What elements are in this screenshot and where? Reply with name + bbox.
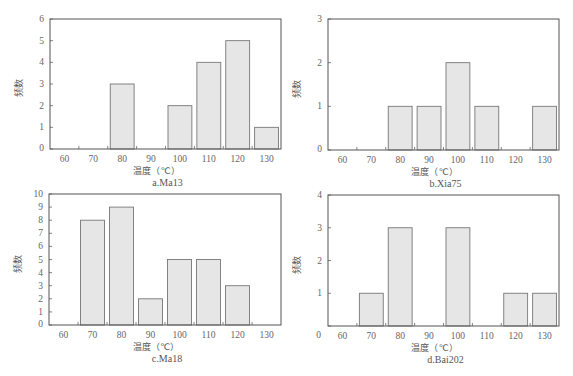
x-tick-label: 80 bbox=[395, 331, 405, 341]
x-tick-label: 60 bbox=[338, 331, 348, 341]
y-tick-label: 0 bbox=[317, 144, 322, 154]
chart-panel-1: 012360708090100110120130温度（℃）b.Xia75频数 bbox=[291, 14, 559, 189]
x-tick-label: 130 bbox=[537, 155, 552, 165]
y-tick-label: 3 bbox=[317, 14, 322, 24]
y-tick-label: 0 bbox=[316, 330, 321, 340]
x-tick-label: 130 bbox=[259, 330, 274, 340]
x-tick-label: 70 bbox=[89, 154, 99, 164]
x-tick-label: 70 bbox=[88, 330, 98, 340]
bar-80 bbox=[110, 84, 134, 149]
bar-110 bbox=[197, 62, 221, 149]
chart-canvas: 012345660708090100110120130温度（℃）a.Ma13频数… bbox=[0, 0, 573, 376]
x-tick-label: 100 bbox=[451, 155, 466, 165]
x-tick-label: 130 bbox=[537, 331, 552, 341]
x-tick-label: 120 bbox=[230, 330, 245, 340]
y-tick-label: 2 bbox=[38, 294, 43, 304]
x-tick-label: 90 bbox=[424, 155, 434, 165]
x-tick-label: 100 bbox=[451, 331, 466, 341]
chart-panel-2: 01234567891060708090100110120130温度（℃）c.M… bbox=[12, 189, 281, 364]
bar-130 bbox=[255, 127, 279, 149]
y-tick-label: 4 bbox=[317, 190, 322, 200]
y-axis-label: 频数 bbox=[12, 255, 23, 273]
x-tick-label: 90 bbox=[424, 331, 434, 341]
bar-100 bbox=[446, 63, 470, 150]
x-tick-label: 70 bbox=[367, 155, 377, 165]
y-tick-label: 0 bbox=[38, 319, 43, 329]
y-tick-label: 5 bbox=[38, 255, 43, 265]
x-tick-label: 90 bbox=[146, 154, 156, 164]
chart-panel-3: 0123460708090100110120130温度（℃）d.Bai202频数 bbox=[291, 190, 559, 365]
bar-100 bbox=[168, 260, 192, 326]
y-tick-label: 2 bbox=[317, 256, 322, 266]
x-tick-label: 100 bbox=[172, 330, 187, 340]
y-tick-label: 1 bbox=[317, 288, 322, 298]
y-tick-label: 9 bbox=[38, 202, 43, 212]
x-tick-label: 120 bbox=[509, 155, 524, 165]
bar-120 bbox=[226, 41, 250, 149]
x-tick-label: 80 bbox=[395, 155, 405, 165]
x-tick-label: 70 bbox=[367, 331, 377, 341]
y-tick-label: 1 bbox=[317, 101, 322, 111]
x-tick-label: 60 bbox=[60, 154, 70, 164]
x-tick-label: 80 bbox=[117, 330, 127, 340]
x-tick-label: 90 bbox=[146, 330, 156, 340]
chart-caption: d.Bai202 bbox=[427, 354, 463, 365]
y-tick-label: 3 bbox=[317, 223, 322, 233]
x-axis-label: 温度（℃） bbox=[133, 341, 179, 352]
bar-80 bbox=[110, 207, 134, 325]
chart-caption: a.Ma13 bbox=[152, 177, 182, 188]
plot-frame bbox=[328, 19, 559, 150]
y-tick-label: 3 bbox=[39, 79, 44, 89]
bar-120 bbox=[504, 293, 528, 326]
x-tick-label: 110 bbox=[202, 330, 216, 340]
bar-90 bbox=[139, 299, 163, 325]
x-tick-label: 120 bbox=[231, 154, 246, 164]
y-tick-label: 2 bbox=[39, 101, 44, 111]
y-tick-label: 3 bbox=[38, 281, 43, 291]
y-tick-label: 8 bbox=[38, 215, 43, 225]
x-axis-label: 温度（℃） bbox=[133, 165, 179, 176]
bar-90 bbox=[417, 106, 441, 150]
bar-100 bbox=[168, 106, 192, 149]
x-tick-label: 80 bbox=[117, 154, 127, 164]
y-axis-label: 频数 bbox=[291, 256, 302, 274]
chart-caption: b.Xia75 bbox=[430, 178, 462, 189]
bar-110 bbox=[475, 106, 499, 150]
y-tick-label: 4 bbox=[38, 268, 43, 278]
y-tick-label: 6 bbox=[38, 241, 43, 251]
y-tick-label: 2 bbox=[317, 58, 322, 68]
y-tick-label: 10 bbox=[34, 189, 44, 199]
x-tick-label: 110 bbox=[480, 155, 494, 165]
x-axis-label: 温度（℃） bbox=[411, 166, 457, 177]
bar-110 bbox=[197, 260, 221, 326]
y-tick-label: 1 bbox=[38, 307, 43, 317]
y-tick-label: 4 bbox=[39, 57, 44, 67]
chart-panel-0: 012345660708090100110120130温度（℃）a.Ma13频数 bbox=[13, 14, 281, 188]
y-tick-label: 1 bbox=[39, 122, 44, 132]
x-tick-label: 130 bbox=[259, 154, 274, 164]
bar-100 bbox=[446, 228, 470, 326]
chart-caption: c.Ma18 bbox=[152, 353, 182, 364]
y-tick-label: 0 bbox=[39, 143, 44, 153]
y-tick-label: 7 bbox=[38, 228, 43, 238]
bar-70 bbox=[81, 220, 105, 325]
x-tick-label: 60 bbox=[59, 330, 69, 340]
x-tick-label: 110 bbox=[202, 154, 216, 164]
y-axis-label: 频数 bbox=[291, 80, 302, 98]
x-tick-label: 120 bbox=[509, 331, 524, 341]
x-tick-label: 100 bbox=[173, 154, 188, 164]
bar-130 bbox=[533, 106, 557, 150]
bar-130 bbox=[533, 293, 557, 326]
x-tick-label: 110 bbox=[480, 331, 494, 341]
bar-70 bbox=[359, 293, 383, 326]
y-axis-label: 频数 bbox=[13, 79, 24, 97]
bar-80 bbox=[388, 106, 412, 150]
x-tick-label: 60 bbox=[338, 155, 348, 165]
y-tick-label: 6 bbox=[39, 14, 44, 24]
bar-80 bbox=[388, 228, 412, 326]
y-tick-label: 5 bbox=[39, 36, 44, 46]
bar-120 bbox=[226, 286, 250, 325]
x-axis-label: 温度（℃） bbox=[411, 342, 457, 353]
